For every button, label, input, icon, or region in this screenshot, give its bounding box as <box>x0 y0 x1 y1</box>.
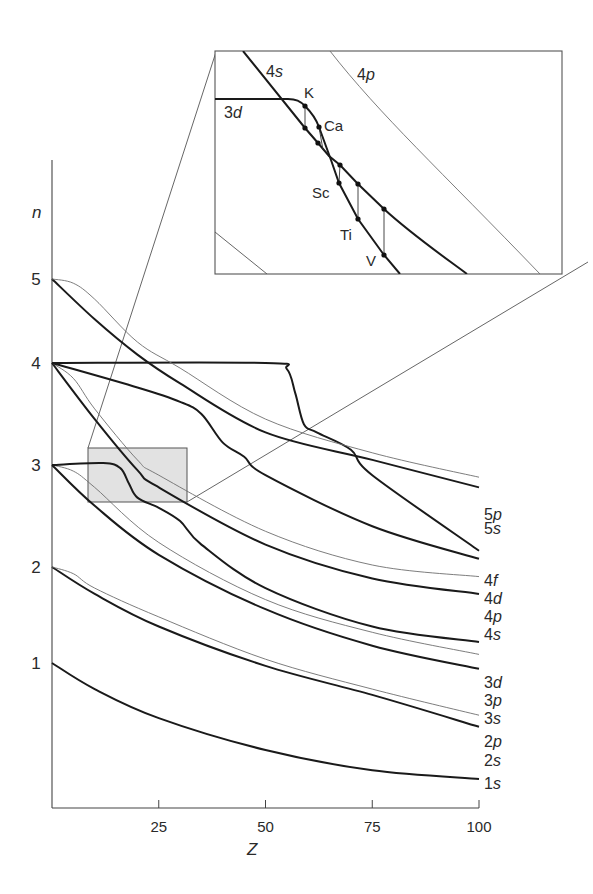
end-label-2p: 2p <box>484 733 502 750</box>
curve-2s <box>52 567 479 727</box>
end-label-3s: 3s <box>484 710 501 727</box>
inset-label-3d: 3d <box>224 104 243 121</box>
y-tick-label: 1 <box>31 654 40 673</box>
inset-label-4s: 4s <box>266 63 283 80</box>
magnifier-line-bottom <box>187 262 588 502</box>
x-ticks: 255075100 <box>150 800 491 835</box>
end-label-2s: 2s <box>484 752 501 769</box>
x-tick-label: 100 <box>466 818 491 835</box>
end-label-1s: 1s <box>484 775 501 792</box>
x-tick-label: 25 <box>150 818 167 835</box>
element-label-Sc: Sc <box>312 184 330 201</box>
x-tick-label: 75 <box>364 818 381 835</box>
orbital-curves <box>52 279 479 779</box>
inset-panel: 4s 4p 3d KCaScTiV <box>215 51 562 274</box>
end-label-3p: 3p <box>484 692 502 709</box>
x-axis-label: Z <box>246 840 258 859</box>
magnifier-line-top <box>88 52 216 448</box>
end-label-4d: 4d <box>484 590 503 607</box>
element-label-Ti: Ti <box>340 226 352 243</box>
curve-end-labels: 5p5s4f4d4p4s3d3p3s2p2s1s <box>484 506 503 792</box>
end-label-3d: 3d <box>484 674 503 691</box>
element-label-K: K <box>304 84 314 101</box>
end-label-5s: 5s <box>484 520 501 537</box>
curve-1s <box>52 663 479 779</box>
curve-5p <box>52 279 479 477</box>
y-tick-label: 2 <box>31 558 40 577</box>
element-label-Ca: Ca <box>324 117 344 134</box>
element-label-V: V <box>366 252 376 269</box>
inset-frame <box>215 51 562 274</box>
y-tick-label: 3 <box>31 456 40 475</box>
y-tick-label: 4 <box>31 354 40 373</box>
y-axis-label: n <box>32 203 41 222</box>
y-ticks: 54321 <box>31 270 40 673</box>
x-tick-label: 50 <box>257 818 274 835</box>
end-label-4p: 4p <box>484 608 502 625</box>
end-label-4f: 4f <box>484 572 499 589</box>
highlight-region <box>88 448 187 502</box>
end-label-4s: 4s <box>484 626 501 643</box>
inset-label-4p: 4p <box>357 66 375 83</box>
y-tick-label: 5 <box>31 270 40 289</box>
curve-2p <box>52 567 479 715</box>
orbital-energy-chart: 255075100 54321 n Z 5p5s4f4d4p4s3d3p3s2p… <box>0 0 593 894</box>
